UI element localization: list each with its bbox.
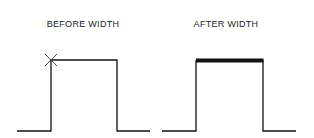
- after-panel: AFTER WIDTH: [162, 19, 296, 131]
- before-title: BEFORE WIDTH: [47, 19, 120, 29]
- thick-top-edge: [196, 59, 264, 63]
- width-diagram: BEFORE WIDTH AFTER WIDTH: [0, 0, 314, 138]
- before-panel: BEFORE WIDTH: [17, 19, 150, 131]
- before-pulse-line: [17, 60, 150, 131]
- after-pulse-line: [162, 61, 296, 131]
- after-title: AFTER WIDTH: [194, 19, 259, 29]
